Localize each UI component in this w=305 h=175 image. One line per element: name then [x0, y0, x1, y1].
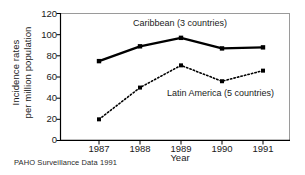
series-line-latin-america — [99, 65, 263, 119]
plot-area — [0, 0, 305, 175]
data-point — [97, 59, 101, 63]
x-axis-ticks — [99, 141, 263, 145]
data-point — [179, 63, 183, 67]
data-point — [138, 44, 142, 48]
series-markers-caribbean — [97, 36, 265, 64]
data-point — [179, 36, 183, 40]
series-markers-latin-america — [97, 63, 265, 121]
chart-figure: Incidence rates per million population 1… — [0, 0, 305, 175]
data-point — [220, 79, 224, 83]
data-point — [220, 46, 224, 50]
data-point — [261, 69, 265, 73]
data-point — [261, 45, 265, 49]
data-point — [97, 117, 101, 121]
data-point — [138, 86, 142, 90]
series-line-caribbean — [99, 38, 263, 61]
